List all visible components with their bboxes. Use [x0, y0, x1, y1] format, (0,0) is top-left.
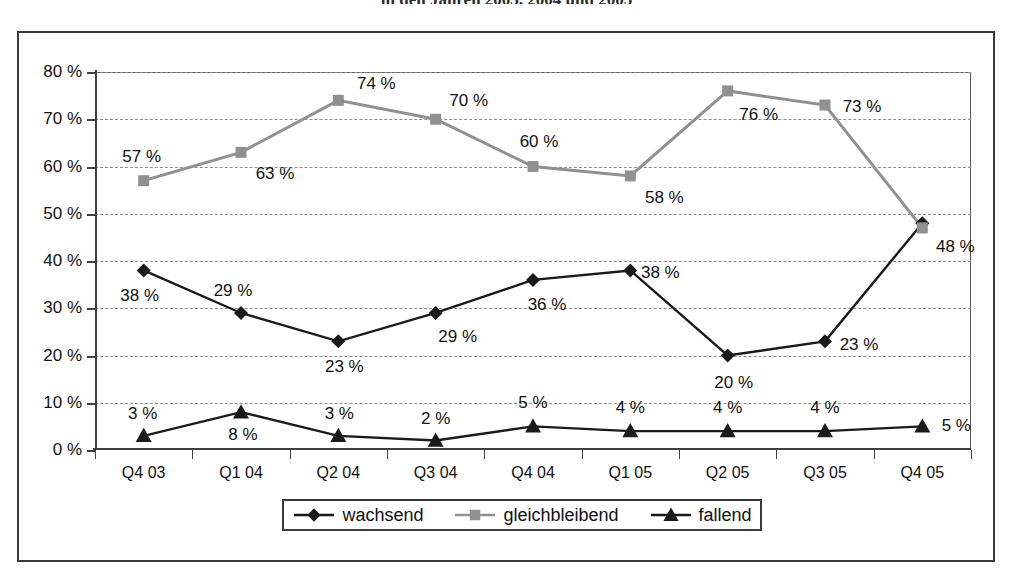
x-axis-tick [582, 450, 583, 459]
y-axis-label: 20 % [43, 346, 82, 366]
y-axis-label: 70 % [43, 109, 82, 129]
data-label: 73 % [843, 97, 882, 117]
x-axis-tick [776, 450, 777, 459]
data-label: 4 % [713, 398, 742, 418]
data-label: 70 % [449, 91, 488, 111]
data-label: 74 % [357, 74, 396, 94]
data-label: 60 % [520, 132, 559, 152]
legend-item-gleichbleibend[interactable]: gleichbleibend [453, 505, 618, 526]
y-axis-tick [87, 167, 95, 169]
square-marker [722, 85, 733, 96]
data-label: 23 % [325, 357, 364, 377]
data-label: 2 % [421, 409, 450, 429]
square-marker [138, 175, 149, 186]
diamond-marker [234, 306, 248, 320]
chart-screenshot: in den Jahren 2003, 2004 und 2005 38 %29… [0, 0, 1013, 578]
y-axis-tick [87, 403, 95, 405]
legend-label: fallend [699, 505, 752, 526]
square-marker [333, 95, 344, 106]
data-label: 58 % [645, 188, 684, 208]
y-axis-label: 80 % [43, 62, 82, 82]
x-axis-tick [679, 450, 680, 459]
y-axis-tick [87, 261, 95, 263]
data-label: 63 % [256, 164, 295, 184]
y-axis-label: 50 % [43, 204, 82, 224]
square-marker [820, 100, 831, 111]
y-axis-tick [87, 214, 95, 216]
x-axis-label: Q4 03 [122, 464, 166, 482]
data-label: 3 % [128, 404, 157, 424]
square-marker [528, 161, 539, 172]
square-marker [430, 114, 441, 125]
data-label: 4 % [810, 398, 839, 418]
x-axis-label: Q3 04 [414, 464, 458, 482]
data-label: 29 % [438, 327, 477, 347]
x-axis-label: Q2 05 [706, 464, 750, 482]
legend-label: wachsend [342, 505, 423, 526]
plot-area: 38 %29 %23 %29 %36 %38 %20 %23 %48 %57 %… [95, 72, 971, 450]
legend-item-wachsend[interactable]: wachsend [292, 505, 423, 526]
data-label: 20 % [714, 373, 753, 393]
square-marker [625, 170, 636, 181]
y-axis-tick [87, 119, 95, 121]
data-label: 38 % [641, 263, 680, 283]
y-axis-tick [87, 308, 95, 310]
diamond-marker [331, 334, 345, 348]
chart-title-cropped: in den Jahren 2003, 2004 und 2005 [0, 0, 1013, 4]
data-label: 38 % [120, 286, 159, 306]
triangle-legend-icon [649, 506, 693, 524]
triangle-marker [233, 404, 249, 418]
y-axis-tick [87, 356, 95, 358]
y-axis-tick [87, 450, 95, 452]
x-axis-tick [874, 450, 875, 459]
y-axis-label: 60 % [43, 157, 82, 177]
x-axis-tick [290, 450, 291, 459]
chart-legend: wachsendgleichbleibendfallend [282, 499, 762, 531]
data-label: 23 % [840, 335, 879, 355]
diamond-marker [137, 263, 151, 277]
data-label: 5 % [518, 393, 547, 413]
x-axis-tick [971, 450, 972, 459]
x-axis-label: Q1 04 [219, 464, 263, 482]
y-axis-label: 0 % [53, 440, 82, 460]
square-marker [236, 147, 247, 158]
square-legend-icon [453, 506, 497, 524]
y-axis-label: 40 % [43, 251, 82, 271]
x-axis-tick [192, 450, 193, 459]
x-axis-label: Q4 04 [511, 464, 555, 482]
data-label: 57 % [122, 147, 161, 167]
x-axis-tick [387, 450, 388, 459]
chart-title-text: in den Jahren 2003, 2004 und 2005 [381, 0, 632, 4]
y-axis-label: 30 % [43, 298, 82, 318]
data-label: 3 % [325, 404, 354, 424]
square-marker [917, 222, 928, 233]
x-axis-label: Q4 05 [901, 464, 945, 482]
diamond-marker [429, 306, 443, 320]
y-axis-tick [87, 72, 95, 74]
x-axis-label: Q2 04 [317, 464, 361, 482]
legend-item-fallend[interactable]: fallend [649, 505, 752, 526]
series-line-gleichbleibend [144, 91, 923, 228]
x-axis-label: Q1 05 [609, 464, 653, 482]
data-label: 48 % [936, 237, 975, 257]
diamond-legend-icon [292, 506, 336, 524]
data-label: 4 % [616, 398, 645, 418]
series-line-wachsend [144, 223, 923, 355]
data-label: 76 % [739, 105, 778, 125]
diamond-marker [308, 508, 321, 521]
data-label: 29 % [214, 281, 253, 301]
x-axis-label: Q3 05 [803, 464, 847, 482]
x-axis-tick [484, 450, 485, 459]
square-marker [470, 510, 480, 520]
legend-label: gleichbleibend [503, 505, 618, 526]
data-label: 5 % [942, 416, 971, 436]
diamond-marker [526, 273, 540, 287]
data-label: 8 % [228, 425, 257, 445]
data-label: 36 % [528, 295, 567, 315]
x-axis-tick [95, 450, 96, 459]
y-axis-label: 10 % [43, 393, 82, 413]
